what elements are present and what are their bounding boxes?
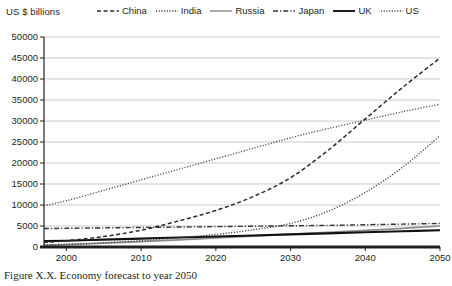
- x-tick-label: 2000: [56, 252, 77, 263]
- legend-label-us: US: [406, 6, 419, 16]
- x-tick-label: 2030: [280, 252, 301, 263]
- legend-label-india: India: [181, 6, 202, 16]
- y-tick-label: 40000: [12, 74, 38, 84]
- legend-item-japan[interactable]: Japan: [273, 6, 324, 16]
- y-tick-label: 30000: [12, 116, 38, 126]
- legend-label-japan: Japan: [298, 6, 324, 16]
- dotted-line-icon: [156, 6, 178, 15]
- solid-line-icon: [210, 6, 232, 15]
- y-tick-label: 20000: [12, 158, 38, 168]
- chart-figure: US $ billions China India Russia Japan: [0, 0, 452, 286]
- dash-dot-line-icon: [273, 6, 295, 15]
- plot-area: [44, 37, 440, 247]
- y-tick-label: 35000: [12, 95, 38, 105]
- legend-label-russia: Russia: [235, 6, 264, 16]
- legend-item-russia[interactable]: Russia: [210, 6, 264, 16]
- solid-line-icon: [333, 6, 355, 15]
- legend-label-uk: UK: [358, 6, 371, 16]
- legend-item-china[interactable]: China: [97, 6, 147, 16]
- x-tick-label: 2010: [131, 252, 152, 263]
- y-tick-label: 10000: [12, 200, 38, 210]
- y-tick-label: 15000: [12, 179, 38, 189]
- y-tick-label: 50000: [12, 32, 38, 42]
- x-tick-label: 2020: [205, 252, 226, 263]
- chart-legend: China India Russia Japan UK: [97, 6, 419, 16]
- x-tick-label: 2050: [429, 252, 450, 263]
- legend-item-india[interactable]: India: [156, 6, 202, 16]
- dashed-line-icon: [97, 6, 119, 15]
- legend-item-us[interactable]: US: [381, 6, 419, 16]
- y-tick-label: 25000: [12, 137, 38, 147]
- axis-lines: [44, 37, 440, 247]
- y-tick-label: 45000: [12, 53, 38, 63]
- legend-label-china: China: [122, 6, 147, 16]
- y-tick-label: 5000: [17, 221, 38, 231]
- dotted-line-icon: [381, 6, 403, 15]
- x-tick-label: 2040: [355, 252, 376, 263]
- y-axis-tick-labels: 5000045000400003500030000250002000015000…: [0, 0, 38, 286]
- legend-item-uk[interactable]: UK: [333, 6, 371, 16]
- figure-caption: Figure X.X. Economy forecast to year 205…: [4, 269, 197, 281]
- y-tick-label: 0: [33, 242, 38, 252]
